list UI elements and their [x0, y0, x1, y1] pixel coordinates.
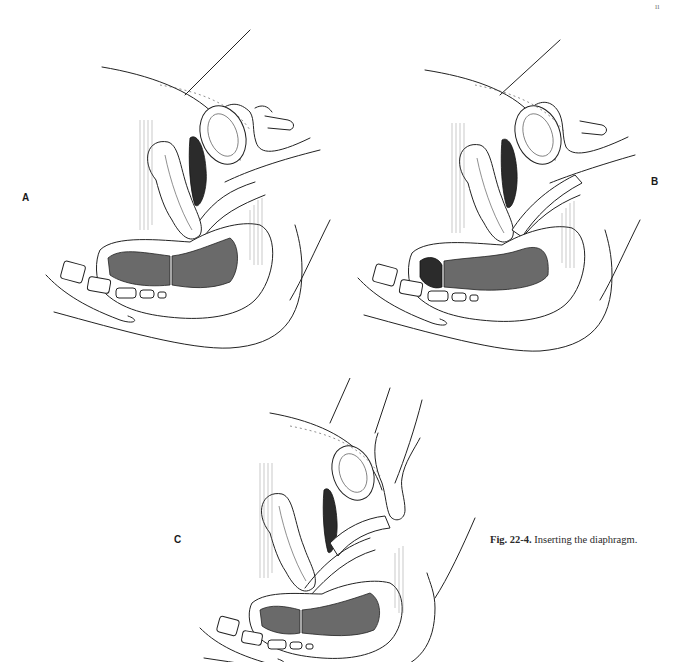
panel-c-illustration [190, 378, 480, 662]
figure-caption: Fig. 22-4. Inserting the diaphragm. [490, 534, 637, 545]
panel-b-illustration [350, 25, 650, 355]
panel-label-c: C [174, 534, 181, 545]
sagittal-section-c [190, 378, 480, 662]
sagittal-section-b [350, 25, 650, 355]
panel-label-b: B [651, 176, 658, 187]
figure-title: Inserting the diaphragm. [534, 534, 637, 545]
figure-number: Fig. 22-4. [490, 534, 532, 545]
panel-a-illustration [40, 20, 340, 350]
corner-mark: ıı [655, 2, 659, 11]
panel-label-a: A [22, 192, 29, 203]
sagittal-section-a [40, 20, 340, 350]
